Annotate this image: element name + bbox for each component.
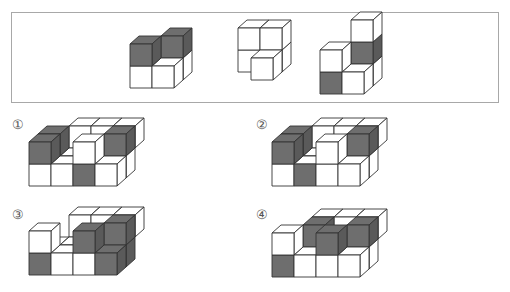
option-1-figure[interactable] xyxy=(0,0,160,80)
option-2-figure[interactable] xyxy=(250,110,410,190)
option-3-figure[interactable] xyxy=(0,200,160,292)
option-4-figure[interactable] xyxy=(250,200,410,292)
option-1-label: ① xyxy=(12,118,24,131)
